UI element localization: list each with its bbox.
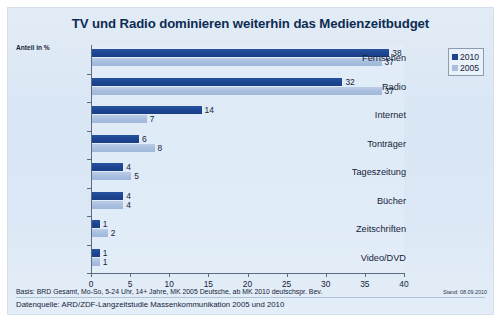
legend-swatch-2005 [452, 65, 458, 71]
bar-value-label: 1 [103, 219, 108, 229]
x-axis-tick [287, 273, 288, 277]
footer-divider [16, 297, 485, 298]
bar-value-label: 32 [345, 77, 354, 87]
bar-value-label: 4 [126, 200, 131, 210]
y-axis-tick [87, 159, 91, 160]
x-axis-tick-label: 35 [360, 279, 369, 289]
category-label: Internet [375, 110, 406, 120]
y-axis-tick [87, 131, 91, 132]
bar-2010-Tageszeitung[interactable] [92, 163, 123, 171]
bar-2010-Internet[interactable] [92, 106, 202, 114]
footnote-stand-date: Stand: 08.09.2010 [443, 289, 487, 295]
bar-2005-Radio[interactable] [92, 87, 382, 95]
y-axis-tick [87, 273, 91, 274]
y-axis-tick [87, 74, 91, 75]
legend-label-2010: 2010 [460, 52, 479, 62]
bar-2010-Tonträger[interactable] [92, 135, 139, 143]
footnote-source: Datenquelle: ARD/ZDF-Langzeitstudie Mass… [16, 300, 284, 309]
category-label: Radio [382, 82, 406, 92]
category-label: Fernsehen [362, 53, 406, 63]
bar-2005-Tageszeitung[interactable] [92, 172, 131, 180]
bar-2010-Video/DVD[interactable] [92, 249, 100, 257]
y-axis-tick [87, 102, 91, 103]
x-axis-tick-label: 30 [321, 279, 330, 289]
bar-2005-Bücher[interactable] [92, 201, 123, 209]
x-axis-tick [248, 273, 249, 277]
x-axis-tick [130, 273, 131, 277]
x-axis-tick [326, 273, 327, 277]
category-label: Tonträger [367, 139, 406, 149]
bar-2005-Video/DVD[interactable] [92, 258, 100, 266]
bar-value-label: 7 [150, 114, 155, 124]
bar-value-label: 1 [103, 257, 108, 267]
bar-2005-Fernsehen[interactable] [92, 58, 382, 66]
category-label: Zeitschriften [356, 224, 406, 234]
x-axis-tick [169, 273, 170, 277]
legend-label-2005: 2005 [460, 63, 479, 73]
category-label: Video/DVD [361, 253, 406, 263]
axis-unit-label: Anteil in % [16, 44, 50, 51]
x-axis-tick [404, 273, 405, 277]
bar-2010-Radio[interactable] [92, 78, 342, 86]
x-axis-tick [365, 273, 366, 277]
chart-title: TV und Radio dominieren weiterhin das Me… [8, 16, 493, 31]
x-axis-tick [91, 273, 92, 277]
plot-area: 383732371476845441211 0510152025303540 [91, 45, 404, 273]
bar-value-label: 14 [205, 105, 214, 115]
bar-value-label: 8 [158, 143, 163, 153]
bar-2010-Bücher[interactable] [92, 192, 123, 200]
bar-2010-Fernsehen[interactable] [92, 49, 389, 57]
bar-2005-Internet[interactable] [92, 115, 147, 123]
legend-item-2005[interactable]: 2005 [452, 62, 479, 73]
category-label: Bücher [377, 196, 406, 206]
bar-2005-Zeitschriften[interactable] [92, 229, 108, 237]
chart-figure: TV und Radio dominieren weiterhin das Me… [8, 8, 493, 314]
bar-value-label: 2 [111, 228, 116, 238]
category-label: Tageszeitung [352, 167, 406, 177]
legend-item-2010[interactable]: 2010 [452, 51, 479, 62]
y-axis-tick [87, 216, 91, 217]
bar-value-label: 5 [134, 171, 139, 181]
bar-2005-Tonträger[interactable] [92, 144, 155, 152]
bar-2010-Zeitschriften[interactable] [92, 220, 100, 228]
x-axis-tick [208, 273, 209, 277]
bar-value-label: 4 [126, 162, 131, 172]
x-axis-tick-label: 40 [399, 279, 408, 289]
bar-value-label: 6 [142, 134, 147, 144]
legend-swatch-2010 [452, 54, 458, 60]
y-axis-tick [87, 245, 91, 246]
chart-legend: 2010 2005 [448, 48, 484, 76]
y-axis-tick [87, 188, 91, 189]
footnote-basis: Basis: BRD Gesamt, Mo-So, 5-24 Uhr, 14+ … [16, 288, 322, 295]
